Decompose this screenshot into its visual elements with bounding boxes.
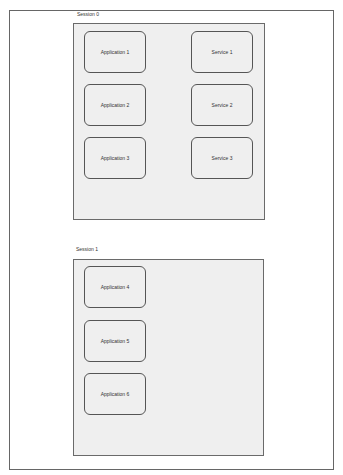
service-1-node[interactable]: Service 1	[191, 31, 253, 73]
session-1-label: Session 1	[76, 246, 98, 252]
application-1-node[interactable]: Application 1	[84, 31, 146, 73]
service-2-node[interactable]: Service 2	[191, 84, 253, 126]
application-2-node[interactable]: Application 2	[84, 84, 146, 126]
application-5-node[interactable]: Application 5	[84, 320, 146, 362]
application-6-node[interactable]: Application 6	[84, 373, 146, 415]
session-0-label: Session 0	[77, 11, 99, 17]
application-4-node[interactable]: Application 4	[84, 266, 146, 308]
service-3-node[interactable]: Service 3	[191, 137, 253, 179]
application-3-node[interactable]: Application 3	[84, 137, 146, 179]
